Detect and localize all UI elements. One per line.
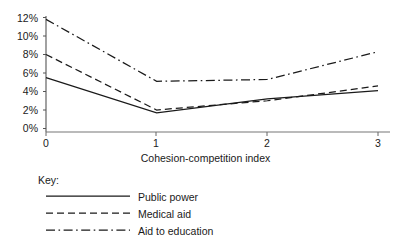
series-line-public-power	[46, 78, 378, 113]
chart-figure: 12% 10% 8% 6% 4% 2% 0% 0 1 2 3 Cohesion-…	[0, 0, 411, 244]
series-line-aid-to-education	[46, 19, 378, 81]
chart-canvas	[0, 0, 411, 244]
series-line-medical-aid	[46, 55, 378, 111]
x-tick-marks	[46, 132, 378, 136]
